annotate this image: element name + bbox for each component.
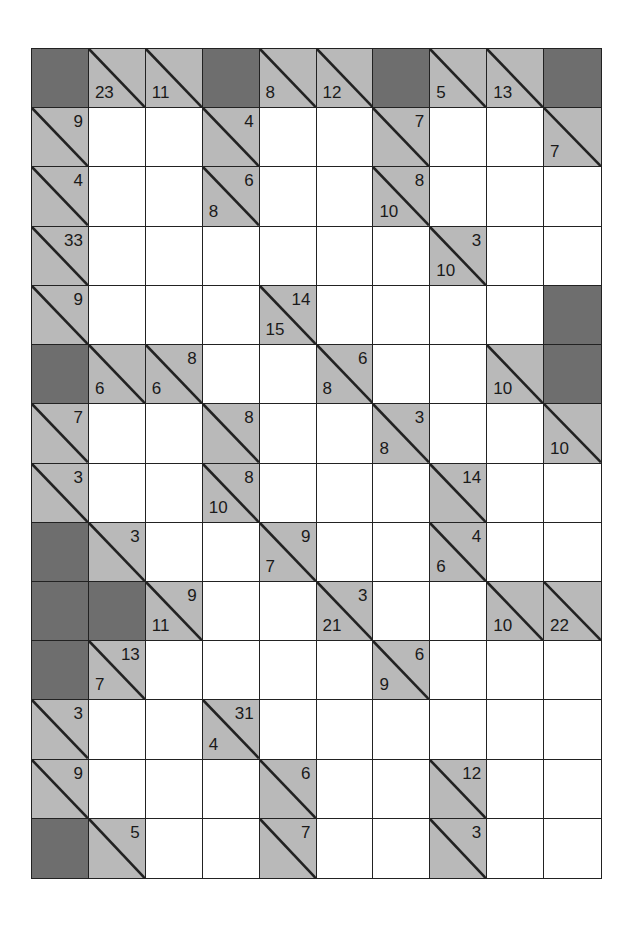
entry-cell[interactable] <box>544 760 601 819</box>
clue-cell: 8 <box>260 49 317 108</box>
entry-cell[interactable] <box>373 286 430 345</box>
entry-cell[interactable] <box>544 523 601 582</box>
clue-cell: 7 <box>544 108 601 167</box>
entry-cell[interactable] <box>203 760 260 819</box>
entry-cell[interactable] <box>544 819 601 878</box>
entry-cell[interactable] <box>430 286 487 345</box>
entry-cell[interactable] <box>430 345 487 404</box>
entry-cell[interactable] <box>317 286 374 345</box>
entry-cell[interactable] <box>89 108 146 167</box>
entry-cell[interactable] <box>146 760 203 819</box>
entry-cell[interactable] <box>487 641 544 700</box>
entry-cell[interactable] <box>430 641 487 700</box>
entry-cell[interactable] <box>89 404 146 463</box>
entry-cell[interactable] <box>203 819 260 878</box>
entry-cell[interactable] <box>260 404 317 463</box>
entry-cell[interactable] <box>373 700 430 759</box>
entry-cell[interactable] <box>317 404 374 463</box>
entry-cell[interactable] <box>373 819 430 878</box>
entry-cell[interactable] <box>260 345 317 404</box>
entry-cell[interactable] <box>260 167 317 226</box>
entry-cell[interactable] <box>146 167 203 226</box>
entry-cell[interactable] <box>373 582 430 641</box>
entry-cell[interactable] <box>146 641 203 700</box>
entry-cell[interactable] <box>317 523 374 582</box>
entry-cell[interactable] <box>487 760 544 819</box>
entry-cell[interactable] <box>89 760 146 819</box>
entry-cell[interactable] <box>430 167 487 226</box>
entry-cell[interactable] <box>373 523 430 582</box>
entry-cell[interactable] <box>203 523 260 582</box>
entry-cell[interactable] <box>430 700 487 759</box>
entry-cell[interactable] <box>430 404 487 463</box>
entry-cell[interactable] <box>146 464 203 523</box>
entry-cell[interactable] <box>487 819 544 878</box>
entry-cell[interactable] <box>373 345 430 404</box>
blocked-cell <box>32 582 89 641</box>
blocked-cell <box>32 345 89 404</box>
entry-cell[interactable] <box>146 523 203 582</box>
entry-cell[interactable] <box>260 227 317 286</box>
entry-cell[interactable] <box>260 641 317 700</box>
entry-cell[interactable] <box>89 464 146 523</box>
down-sum: 8 <box>379 439 388 459</box>
entry-cell[interactable] <box>146 108 203 167</box>
entry-cell[interactable] <box>89 700 146 759</box>
clue-cell: 22 <box>544 582 601 641</box>
entry-cell[interactable] <box>89 227 146 286</box>
entry-cell[interactable] <box>317 108 374 167</box>
entry-cell[interactable] <box>487 286 544 345</box>
across-sum: 8 <box>187 349 196 369</box>
entry-cell[interactable] <box>203 345 260 404</box>
across-sum: 9 <box>73 290 82 310</box>
entry-cell[interactable] <box>260 582 317 641</box>
entry-cell[interactable] <box>146 227 203 286</box>
entry-cell[interactable] <box>317 641 374 700</box>
clue-cell: 12 <box>317 49 374 108</box>
entry-cell[interactable] <box>430 582 487 641</box>
entry-cell[interactable] <box>146 819 203 878</box>
entry-cell[interactable] <box>89 167 146 226</box>
entry-cell[interactable] <box>317 464 374 523</box>
entry-cell[interactable] <box>317 700 374 759</box>
entry-cell[interactable] <box>317 819 374 878</box>
entry-cell[interactable] <box>203 641 260 700</box>
down-sum: 8 <box>209 202 218 222</box>
blocked-cell <box>32 523 89 582</box>
entry-cell[interactable] <box>487 404 544 463</box>
entry-cell[interactable] <box>544 167 601 226</box>
entry-cell[interactable] <box>203 227 260 286</box>
entry-cell[interactable] <box>487 523 544 582</box>
entry-cell[interactable] <box>89 286 146 345</box>
entry-cell[interactable] <box>487 108 544 167</box>
entry-cell[interactable] <box>487 700 544 759</box>
entry-cell[interactable] <box>430 108 487 167</box>
entry-cell[interactable] <box>487 464 544 523</box>
entry-cell[interactable] <box>544 227 601 286</box>
entry-cell[interactable] <box>260 108 317 167</box>
entry-cell[interactable] <box>203 582 260 641</box>
entry-cell[interactable] <box>373 760 430 819</box>
across-sum: 6 <box>358 349 367 369</box>
entry-cell[interactable] <box>146 700 203 759</box>
across-sum: 5 <box>130 823 139 843</box>
entry-cell[interactable] <box>373 464 430 523</box>
entry-cell[interactable] <box>260 700 317 759</box>
entry-cell[interactable] <box>146 286 203 345</box>
entry-cell[interactable] <box>544 641 601 700</box>
entry-cell[interactable] <box>373 227 430 286</box>
entry-cell[interactable] <box>203 286 260 345</box>
entry-cell[interactable] <box>317 167 374 226</box>
entry-cell[interactable] <box>260 464 317 523</box>
entry-cell[interactable] <box>487 167 544 226</box>
entry-cell[interactable] <box>487 227 544 286</box>
down-sum: 11 <box>152 616 170 636</box>
entry-cell[interactable] <box>317 227 374 286</box>
entry-cell[interactable] <box>146 404 203 463</box>
entry-cell[interactable] <box>544 464 601 523</box>
across-sum: 4 <box>472 527 481 547</box>
entry-cell[interactable] <box>317 760 374 819</box>
blocked-cell <box>203 49 260 108</box>
entry-cell[interactable] <box>544 700 601 759</box>
down-sum: 7 <box>550 142 559 162</box>
